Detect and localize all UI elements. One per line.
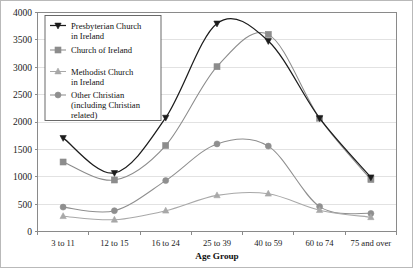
y-tick-label-2000: 2000 (13, 117, 32, 127)
chart-legend: Presbyterian Churchin IrelandChurch of I… (45, 16, 161, 121)
x-category-label-6: 75 and over (351, 238, 392, 248)
legend-label-1-line-0: Church of Ireland (71, 45, 133, 55)
y-tick-label-0: 0 (27, 227, 32, 237)
data-point-3 (214, 64, 220, 70)
x-category-label-0: 3 to 11 (51, 238, 75, 248)
y-tick-label-3500: 3500 (13, 35, 32, 45)
data-point-2 (163, 178, 169, 184)
legend-label-2-line-1: in Ireland (71, 77, 105, 87)
x-category-label-1: 12 to 15 (100, 238, 128, 248)
x-axis-category-labels: 3 to 1112 to 1516 to 2425 to 3940 to 596… (51, 238, 391, 248)
legend-label-3-line-0: Other Christian (71, 90, 125, 100)
legend-marker-square (55, 47, 61, 53)
legend-label-0-line-0: Presbyterian Church (71, 21, 142, 31)
legend-label-0-line-1: in Ireland (71, 31, 105, 41)
legend-label-3-line-1: (including Christian (71, 100, 141, 110)
legend-label-3-line-2: related) (71, 110, 97, 120)
y-tick-label-2500: 2500 (13, 90, 32, 100)
y-tick-label-4000: 4000 (13, 8, 32, 18)
x-category-label-3: 25 to 39 (203, 238, 231, 248)
data-point-0 (60, 204, 66, 210)
y-axis-tick-labels: 05001000150020002500300035004000 (13, 8, 32, 237)
data-point-1 (111, 208, 117, 214)
data-point-0 (60, 213, 66, 219)
data-point-2 (163, 143, 169, 149)
y-tick-label-500: 500 (18, 200, 33, 210)
y-tick-label-3000: 3000 (13, 63, 32, 73)
legend-marker-circle (55, 92, 61, 98)
data-point-4 (265, 143, 271, 149)
data-point-3 (214, 141, 220, 147)
series-circle (60, 139, 374, 216)
line-chart: 05001000150020002500300035004000 3 to 11… (1, 1, 413, 268)
series-triangle-up (60, 190, 374, 222)
y-tick-label-1500: 1500 (13, 145, 32, 155)
x-axis-title: Age Group (195, 251, 238, 261)
data-point-1 (111, 177, 117, 183)
x-category-label-4: 40 to 59 (254, 238, 282, 248)
data-point-0 (60, 159, 66, 165)
x-category-label-2: 16 to 24 (152, 238, 181, 248)
chart-container: 05001000150020002500300035004000 3 to 11… (0, 0, 413, 268)
x-axis-title-text: Age Group (195, 251, 238, 261)
x-category-label-5: 60 to 74 (306, 238, 335, 248)
legend-label-2-line-0: Methodist Church (71, 67, 134, 77)
y-tick-label-1000: 1000 (13, 172, 32, 182)
data-point-4 (265, 31, 271, 37)
